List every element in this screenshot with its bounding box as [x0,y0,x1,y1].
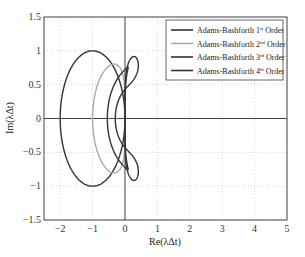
chart-svg: −2−1012345−1.5−1−0.500.511.5 Re(λΔt) Im(… [0,0,305,257]
x-axis-label: Re(λΔt) [149,236,181,248]
legend-entry: Adams-Bashforth 2nd Order [197,40,286,49]
x-tick-label: 3 [220,223,225,234]
legend: Adams-Bashforth 1st OrderAdams-Bashforth… [166,20,286,80]
x-tick-label: −1 [87,223,98,234]
legend-entry: Adams-Bashforth 3rd Order [197,53,285,62]
x-tick-label: 5 [285,223,290,234]
y-tick-label: 0 [36,113,41,124]
y-tick-label: 1 [36,45,41,56]
x-tick-label: 2 [187,223,192,234]
x-tick-label: 0 [123,223,128,234]
y-tick-label: −1.5 [23,214,41,225]
x-tick-label: 1 [155,223,160,234]
y-tick-label: −1 [30,180,41,191]
legend-entry: Adams-Bashforth 4th Order [197,67,285,76]
y-tick-label: 0.5 [29,79,42,90]
y-tick-label: −0.5 [23,146,41,157]
legend-entry: Adams-Bashforth 1st Order [197,26,284,35]
y-tick-label: 1.5 [29,11,42,22]
stability-chart: −2−1012345−1.5−1−0.500.511.5 Re(λΔt) Im(… [0,0,305,257]
x-tick-label: −2 [55,223,66,234]
x-tick-label: 4 [252,223,257,234]
y-axis-label: Im(λΔt) [4,102,16,134]
